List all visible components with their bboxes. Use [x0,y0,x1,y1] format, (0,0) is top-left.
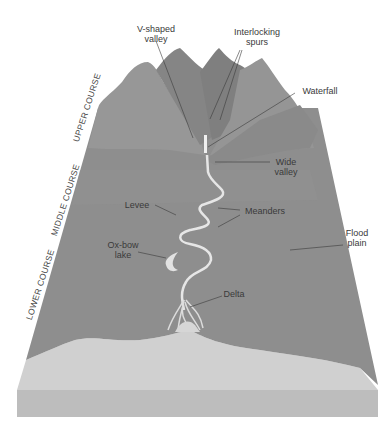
label-line: Interlocking [222,27,292,37]
river-course-diagram: UPPER COURSE MIDDLE COURSE LOWER COURSE … [0,0,392,437]
label-line: Meanders [243,206,287,216]
block-front-face [17,390,378,417]
label-line: Ox-bow [106,240,140,250]
wide-valley-label: Wide valley [271,157,301,177]
label-line: lake [106,250,140,260]
label-line: Delta [220,289,248,299]
label-line: V-shaped [126,24,186,34]
label-line: plain [343,238,371,248]
ox-bow-lake-label: Ox-bow lake [106,240,140,260]
label-line: Waterfall [295,86,345,96]
label-line: valley [126,34,186,44]
waterfall [204,135,207,153]
v-shaped-valley-label: V-shaped valley [126,24,186,44]
flood-plain-label: Flood plain [343,228,371,248]
interlocking-spurs-label: Interlocking spurs [222,27,292,47]
label-line: Levee [120,200,154,210]
delta-label: Delta [220,289,248,299]
meanders-label: Meanders [243,206,287,216]
label-line: valley [271,167,301,177]
label-line: Flood [343,228,371,238]
label-line: spurs [222,37,292,47]
waterfall-label: Waterfall [295,86,345,96]
levee-label: Levee [120,200,154,210]
label-line: Wide [271,157,301,167]
